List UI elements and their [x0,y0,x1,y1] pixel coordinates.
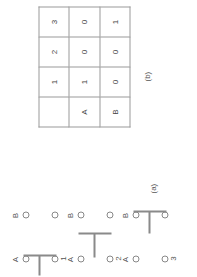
diagram-3-horizontal-stem [148,211,150,233]
diagram-2: A B 2 [65,177,121,277]
diagram-2-node-a-bottom [106,255,113,262]
matrix-table: 1 2 3 A 1 0 0 B 0 0 1 [38,6,130,127]
table-corner-cell [39,97,69,127]
diagram-1-label-a: A [10,253,19,265]
table-cell-b-2: 0 [99,37,129,67]
diagram-1-label-b: B [10,209,19,221]
diagram-2-horizontal-stem [93,233,95,257]
table-cell-b-3: 1 [99,7,129,37]
table-row: A 1 0 0 [69,7,99,127]
diagram-2-label-a: A [65,253,74,265]
diagram-1-node-b-top [22,211,29,218]
diagram-1: A B 1 [10,177,66,277]
diagram-3-node-a-bottom [161,255,168,262]
panel-b-table: 1 2 3 A 1 0 0 B 0 0 1 (b) [38,7,138,127]
diagram-2-node-a-top [77,255,84,262]
figure-canvas: A B 1 A B 2 A B [0,0,197,277]
table-cell-a-2: 0 [69,37,99,67]
table-cell-a-1: 1 [69,67,99,97]
diagram-3-node-a-top [132,255,139,262]
panel-b-caption: (b) [142,71,151,81]
diagram-3-number: 3 [168,253,177,263]
table-header-row: 1 2 3 [39,7,69,127]
table-header-1: 1 [39,67,69,97]
table-row: B 0 0 1 [99,7,129,127]
diagram-2-node-b-bottom [106,211,113,218]
diagram-2-node-b-top [77,211,84,218]
panel-a-caption: (a) [148,183,157,193]
table-row-a-label: A [69,97,99,127]
diagram-1-node-b-bottom [51,211,58,218]
diagram-2-label-b: B [65,209,74,221]
diagram-3-label-a: A [120,253,129,265]
table-header-3: 3 [39,7,69,37]
table-cell-b-1: 0 [99,67,129,97]
panel-a-diagrams: A B 1 A B 2 A B [8,177,190,277]
table-header-2: 2 [39,37,69,67]
diagram-3-label-b: B [120,209,129,221]
diagram-1-horizontal-stem [38,255,40,275]
table-cell-a-3: 0 [69,7,99,37]
table-row-b-label: B [99,97,129,127]
